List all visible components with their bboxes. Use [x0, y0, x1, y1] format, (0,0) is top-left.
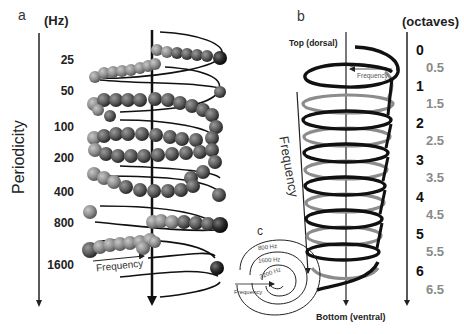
- panel-c-frequency-label: Frequency: [234, 289, 262, 295]
- octave-tick-0: 0: [416, 42, 424, 58]
- octave-tick-2: 2: [416, 115, 424, 131]
- bottom-ventral-label: Bottom (ventral): [316, 312, 386, 322]
- top-frequency-label: Frequency: [357, 72, 388, 79]
- panel-c-letter: c: [257, 224, 263, 238]
- diagram-graphics: [0, 0, 464, 334]
- octave-tick-0-5: 0.5: [426, 60, 444, 75]
- octave-tick-5-5: 5.5: [426, 244, 444, 259]
- panel-b-unit: (octaves): [402, 14, 459, 29]
- octave-tick-5: 5: [416, 226, 424, 242]
- panel-b-letter: b: [297, 8, 305, 24]
- octave-tick-1: 1: [416, 78, 424, 94]
- octave-tick-4-5: 4.5: [426, 207, 444, 222]
- octave-tick-3-5: 3.5: [426, 170, 444, 185]
- octave-tick-2-5: 2.5: [426, 133, 444, 148]
- octave-tick-4: 4: [416, 189, 424, 205]
- octave-tick-1-5: 1.5: [426, 96, 444, 111]
- octave-tick-6: 6: [416, 263, 424, 279]
- top-dorsal-label: Top (dorsal): [289, 38, 337, 48]
- octave-tick-3: 3: [416, 152, 424, 168]
- octave-tick-6-5: 6.5: [426, 282, 444, 297]
